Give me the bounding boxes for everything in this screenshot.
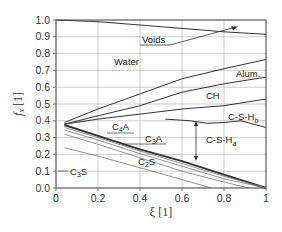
- y-tick-label: 0.9: [35, 30, 50, 42]
- y-tick-label: 1.0: [35, 14, 50, 26]
- y-tick-label: 0.7: [35, 64, 50, 76]
- label-c4a: C4A: [112, 121, 130, 133]
- voids-arrowhead-icon: [231, 27, 238, 31]
- y-tick-label: 0.8: [35, 47, 50, 59]
- label-water: Water: [114, 56, 139, 67]
- x-axis-ticks: 00.20.40.60.81: [53, 188, 269, 204]
- label-alum: Alum.: [236, 68, 260, 79]
- x-tick-label: 1: [263, 192, 269, 204]
- x-tick-label: 0.2: [91, 192, 106, 204]
- y-tick-label: 0.1: [35, 165, 50, 177]
- label-c3s: C3S: [70, 166, 87, 178]
- y-tick-label: 0.3: [35, 131, 50, 143]
- x-tick-label: 0: [53, 192, 59, 204]
- label-csh-a: C-S-Ha: [206, 134, 236, 147]
- phase-fraction-chart: 0.00.10.20.30.40.50.60.70.80.91.0 00.20.…: [0, 0, 282, 232]
- x-tick-label: 0.4: [133, 192, 148, 204]
- y-axis-title: fx [1]: [11, 92, 26, 116]
- x-axis-title: ξ [1]: [150, 205, 172, 219]
- y-tick-label: 0.2: [35, 148, 50, 160]
- arrow-down-icon: [194, 156, 198, 161]
- y-axis-ticks: 0.00.10.20.30.40.50.60.70.80.91.0: [35, 14, 56, 194]
- y-tick-label: 0.4: [35, 114, 50, 126]
- label-c3a: C3A: [145, 133, 163, 145]
- y-tick-label: 0.0: [35, 182, 50, 194]
- series-line: [64, 125, 266, 188]
- label-ch: CH: [206, 90, 220, 101]
- x-tick-label: 0.8: [217, 192, 232, 204]
- y-tick-label: 0.6: [35, 81, 50, 93]
- y-axis-title-text: fx [1]: [11, 92, 26, 116]
- y-tick-label: 0.5: [35, 98, 50, 110]
- label-voids: Voids: [142, 34, 165, 45]
- x-tick-label: 0.6: [175, 192, 190, 204]
- label-csh-b: C-S-Hb: [228, 111, 258, 124]
- label-c2s: C2S: [138, 156, 155, 168]
